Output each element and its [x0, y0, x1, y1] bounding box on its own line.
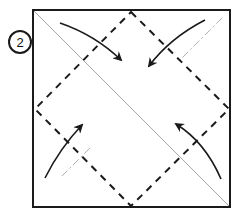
origami-diagram: 2	[0, 0, 240, 211]
step-number-badge: 2	[9, 31, 31, 53]
step-number: 2	[16, 35, 23, 50]
